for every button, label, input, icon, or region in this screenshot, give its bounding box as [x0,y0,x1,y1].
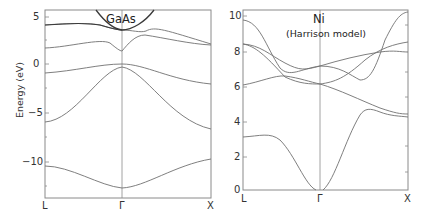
x-tick-label: Γ [317,194,323,204]
ni-band-1 [243,109,408,190]
gaas-title: GaAs [106,14,136,26]
y-tick-label: 8 [234,47,240,57]
y-tick-label: 2 [234,152,240,162]
ni-band-5 [243,12,408,80]
x-tick-label: L [241,194,247,204]
y-tick-label: 10 [229,11,242,21]
y-tick-label: 5 [33,12,39,22]
y-tick-label: 0 [33,59,39,69]
gaas-band-4 [45,35,211,51]
ni-subtitle: (Harrison model) [286,29,366,39]
ni-band-3 [243,44,408,69]
gaas-plot [45,10,211,198]
ni-band-2 [243,76,408,114]
y-tick-label: −5 [28,108,43,118]
gaas-band-3 [45,64,211,84]
x-tick-label: L [42,201,48,211]
y-tick-label: −10 [22,157,43,167]
x-tick-label: X [404,194,411,204]
gaas-band-5 [45,24,211,45]
ni-band-4 [243,42,408,84]
y-axis-label: Energy (eV) [14,62,25,118]
x-tick-label: Γ [119,201,125,211]
x-tick-label: X [207,201,214,211]
ni-title: Ni [313,14,325,26]
y-tick-label: 6 [234,82,240,92]
y-tick-label: 4 [234,117,240,127]
y-tick-label: 0 [234,185,240,195]
gaas-band-2 [45,67,211,129]
gaas-band-1 [45,159,211,188]
